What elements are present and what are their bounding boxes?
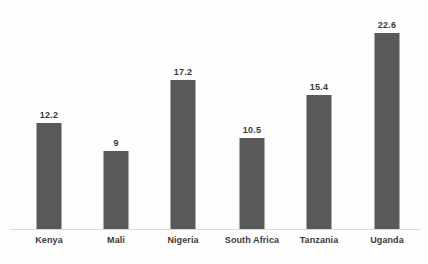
- bar-group-5: 22.6 Uganda: [354, 0, 420, 264]
- category-label-mali: Mali: [107, 235, 125, 245]
- bar-group-0: 12.2 Kenya: [16, 0, 82, 264]
- bar-value-label: 9: [113, 138, 118, 148]
- bar-value-label: 12.2: [40, 110, 58, 120]
- bar-chart: 12.2 Kenya 9 Mali 17.2 Nigeria 10.5 Sout…: [0, 0, 428, 264]
- category-label-uganda: Uganda: [370, 235, 404, 245]
- bar-group-2: 17.2 Nigeria: [150, 0, 216, 264]
- bar-value-label: 22.6: [378, 20, 396, 30]
- plot-area: 12.2 Kenya 9 Mali 17.2 Nigeria 10.5 Sout…: [0, 0, 428, 264]
- bar-group-3: 10.5 South Africa: [219, 0, 285, 264]
- bar-group-1: 9 Mali: [83, 0, 149, 264]
- bar-tanzania[interactable]: [307, 95, 332, 229]
- bar-uganda[interactable]: [375, 33, 400, 229]
- bar-group-4: 15.4 Tanzania: [286, 0, 352, 264]
- bar-nigeria[interactable]: [171, 80, 196, 229]
- category-label-south-africa: South Africa: [225, 235, 279, 245]
- bar-value-label: 10.5: [243, 125, 261, 135]
- bar-kenya[interactable]: [37, 123, 62, 229]
- category-label-tanzania: Tanzania: [300, 235, 339, 245]
- category-label-nigeria: Nigeria: [167, 235, 198, 245]
- bar-south-africa[interactable]: [240, 138, 265, 229]
- bar-value-label: 17.2: [174, 67, 192, 77]
- bar-value-label: 15.4: [310, 82, 328, 92]
- bar-mali[interactable]: [104, 151, 129, 229]
- category-label-kenya: Kenya: [35, 235, 63, 245]
